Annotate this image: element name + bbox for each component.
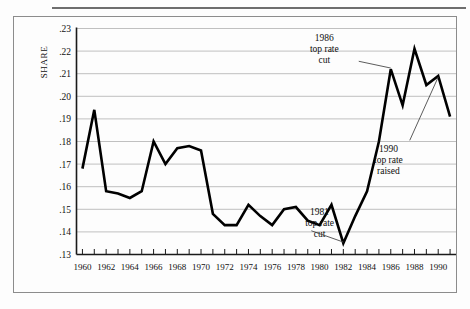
x-tick-label: 1962 bbox=[97, 262, 115, 272]
annotation-leader-line bbox=[359, 61, 391, 68]
x-tick-label: 1988 bbox=[405, 262, 424, 272]
annotation-text-line: top rate bbox=[374, 155, 403, 165]
annotation-text-line: 1990 bbox=[379, 144, 398, 154]
x-tick-label: 1964 bbox=[121, 262, 140, 272]
x-tick-label: 1970 bbox=[192, 262, 211, 272]
y-tick-label: .15 bbox=[59, 205, 71, 215]
y-axis-title: SHARE bbox=[39, 46, 49, 79]
annotation-text-line: cut bbox=[314, 229, 326, 239]
y-tick-label: .22 bbox=[59, 47, 71, 57]
y-tick-label: .23 bbox=[59, 24, 71, 34]
x-tick-label: 1986 bbox=[382, 262, 401, 272]
annotation-text-line: top rate bbox=[310, 44, 339, 54]
x-tick-label: 1960 bbox=[73, 262, 92, 272]
figure-container: .13.14.15.16.17.18.19.20.21.22.23 196019… bbox=[0, 0, 470, 309]
x-tick-label: 1980 bbox=[311, 262, 330, 272]
annotation-text-line: cut bbox=[319, 55, 331, 65]
annotation-leader-line bbox=[410, 77, 438, 140]
x-tick-label: 1982 bbox=[334, 262, 352, 272]
y-tick-label: .17 bbox=[59, 160, 71, 170]
tickmarks-group bbox=[82, 249, 450, 255]
y-tick-label: .14 bbox=[59, 227, 71, 237]
y-tick-labels-group: .13.14.15.16.17.18.19.20.21.22.23 bbox=[59, 24, 71, 260]
chart-stage: .13.14.15.16.17.18.19.20.21.22.23 196019… bbox=[0, 0, 470, 309]
annotation-text-line: raised bbox=[377, 166, 400, 176]
x-tick-label: 1990 bbox=[429, 262, 448, 272]
x-tick-label: 1978 bbox=[287, 262, 306, 272]
x-tick-labels-group: 1960196219641966196819701972197419761978… bbox=[73, 262, 447, 272]
annotation-text-line: top rate bbox=[305, 218, 334, 228]
line-chart: .13.14.15.16.17.18.19.20.21.22.23 196019… bbox=[0, 0, 470, 309]
y-tick-label: .16 bbox=[59, 182, 71, 192]
x-tick-label: 1966 bbox=[145, 262, 164, 272]
y-tick-label: .18 bbox=[59, 137, 71, 147]
y-axis-title-group: SHARE bbox=[39, 46, 49, 79]
y-tick-label: .19 bbox=[59, 114, 71, 124]
y-tick-label: .20 bbox=[59, 92, 71, 102]
x-tick-label: 1984 bbox=[358, 262, 377, 272]
annotation-text-line: 1981 bbox=[310, 207, 329, 217]
x-tick-label: 1968 bbox=[168, 262, 187, 272]
y-tick-label: .13 bbox=[59, 250, 71, 260]
x-tick-label: 1972 bbox=[216, 262, 234, 272]
x-tick-label: 1976 bbox=[263, 262, 282, 272]
y-tick-label: .21 bbox=[59, 69, 71, 79]
annotation-text-line: 1986 bbox=[315, 33, 334, 43]
gridlines-group bbox=[77, 29, 457, 232]
x-tick-label: 1974 bbox=[239, 262, 258, 272]
